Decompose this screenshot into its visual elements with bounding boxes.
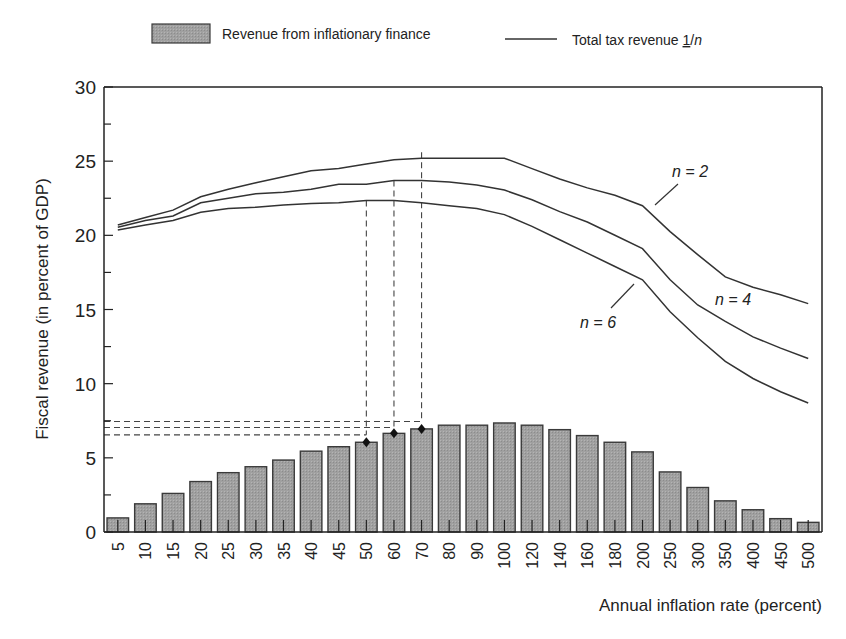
x-tick-label: 350	[717, 542, 734, 569]
y-tick-label: 0	[85, 522, 96, 543]
y-tick-label: 5	[85, 448, 96, 469]
bar	[438, 425, 460, 532]
plot-area: n = 2n = 4n = 60510152025305101520253035…	[75, 77, 822, 569]
bar	[549, 430, 571, 532]
x-tick-label: 20	[193, 542, 210, 560]
x-tick-label: 60	[386, 542, 403, 560]
chart-figure: Revenue from inflationary finance Total …	[0, 0, 846, 639]
x-tick-label: 300	[690, 542, 707, 569]
series-annotation: n = 4	[715, 291, 751, 308]
x-tick-label: 70	[414, 542, 431, 560]
legend-bar-swatch	[152, 24, 210, 43]
bar	[356, 442, 378, 532]
x-tick-label: 120	[524, 542, 541, 569]
x-tick-label: 450	[773, 542, 790, 569]
x-tick-label: 180	[607, 542, 624, 569]
series-line	[118, 201, 808, 404]
x-tick-label: 15	[165, 542, 182, 560]
x-tick-label: 10	[137, 542, 154, 560]
x-tick-label: 200	[635, 542, 652, 569]
series-annotation: n = 2	[672, 163, 708, 180]
legend-bar-label: Revenue from inflationary finance	[222, 26, 431, 42]
bar	[300, 451, 322, 532]
x-axis-label: Annual inflation rate (percent)	[599, 596, 822, 615]
x-tick-label: 40	[303, 542, 320, 560]
x-tick-label: 100	[496, 542, 513, 569]
bar	[494, 423, 516, 532]
annotation-leader-line	[655, 184, 678, 205]
annotation-leader-line	[611, 284, 634, 308]
x-tick-label: 45	[331, 542, 348, 560]
bar	[466, 425, 488, 532]
x-tick-label: 400	[745, 542, 762, 569]
series-line	[118, 158, 808, 303]
y-tick-label: 30	[75, 77, 96, 98]
x-tick-label: 500	[800, 542, 817, 569]
x-tick-label: 5	[110, 542, 127, 551]
bar	[521, 425, 543, 532]
y-tick-label: 15	[75, 300, 96, 321]
bar	[632, 452, 654, 532]
bar	[604, 442, 626, 532]
series-annotation: n = 6	[580, 314, 616, 331]
y-tick-label: 25	[75, 151, 96, 172]
x-tick-label: 80	[441, 542, 458, 560]
y-tick-label: 10	[75, 374, 96, 395]
x-tick-label: 160	[579, 542, 596, 569]
x-tick-label: 50	[358, 542, 375, 560]
x-tick-label: 140	[552, 542, 569, 569]
x-tick-label: 35	[276, 542, 293, 560]
y-tick-label: 20	[75, 225, 96, 246]
x-tick-label: 250	[662, 542, 679, 569]
legend-line-label: Total tax revenue 1/n	[572, 32, 702, 48]
bar	[576, 436, 598, 532]
y-axis-label: Fiscal revenue (in percent of GDP)	[33, 178, 52, 440]
bar	[411, 429, 433, 532]
chart-container: Revenue from inflationary finance Total …	[0, 0, 846, 639]
x-tick-label: 30	[248, 542, 265, 560]
bar	[383, 433, 405, 532]
legend: Revenue from inflationary finance Total …	[152, 24, 702, 48]
x-tick-label: 25	[220, 542, 237, 560]
bar	[328, 447, 350, 532]
x-tick-label: 90	[469, 542, 486, 560]
